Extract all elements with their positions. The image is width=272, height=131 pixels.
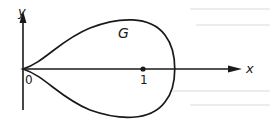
x-axis-arrow-icon: [228, 66, 242, 73]
y-axis-label: y: [18, 5, 26, 18]
origin-label: 0: [25, 74, 33, 86]
figure-svg: [0, 0, 272, 131]
point-label-1: 1: [140, 74, 148, 86]
point-x-equals-1: [140, 66, 145, 71]
region-label-G: G: [118, 26, 129, 40]
x-axis-label: x: [246, 62, 254, 75]
figure-canvas: y x 0 1 G: [0, 0, 272, 131]
